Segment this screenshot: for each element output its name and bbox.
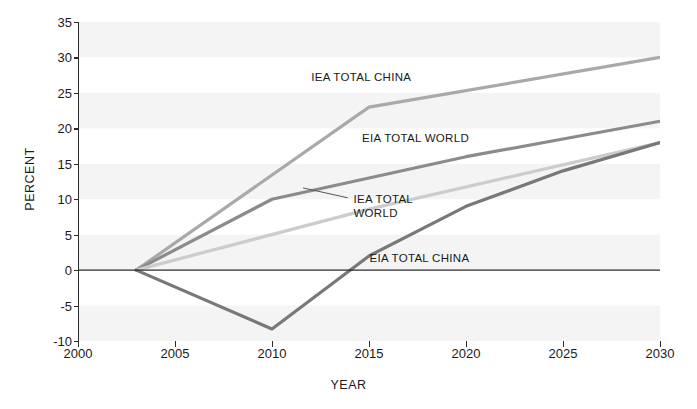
y-axis-tick-mark: [74, 57, 79, 58]
y-axis-tick-mark: [74, 235, 79, 236]
series-label-eia-total-world: EIA TOTAL WORLD: [362, 131, 469, 145]
y-axis-tick-label: 25: [26, 85, 72, 100]
x-axis-title: YEAR: [0, 378, 697, 392]
y-axis-tick-label: 5: [26, 227, 72, 242]
y-axis-tick-mark: [74, 93, 79, 94]
x-axis-tick-label: 2015: [334, 346, 404, 361]
x-axis-tick-label: 2030: [625, 346, 695, 361]
x-axis-tick-mark: [78, 341, 79, 347]
y-axis-line: [78, 22, 79, 341]
x-axis-tick-mark: [272, 341, 273, 347]
y-axis-tick-label: 15: [26, 156, 72, 171]
y-axis-tick-label: 0: [26, 263, 72, 278]
y-axis-tick-mark: [74, 164, 79, 165]
x-axis-tick-label: 2020: [431, 346, 501, 361]
x-axis-tick-mark: [466, 341, 467, 347]
x-axis-tick-label: 2000: [43, 346, 113, 361]
x-axis-tick-mark: [563, 341, 564, 347]
y-axis-tick-mark: [74, 270, 79, 271]
series-label-eia-total-china: EIA TOTAL CHINA: [369, 251, 469, 265]
x-axis-tick-mark: [369, 341, 370, 347]
y-axis-tick-label: 20: [26, 121, 72, 136]
y-axis-tick-label: -5: [26, 298, 72, 313]
y-axis-tick-mark: [74, 22, 79, 23]
x-axis-tick-label: 2005: [140, 346, 210, 361]
background-band: [78, 306, 660, 341]
series-label-iea-total-world-line1: IEA TOTAL: [353, 193, 413, 205]
y-axis-tick-label: 30: [26, 50, 72, 65]
y-axis-tick-label: 10: [26, 192, 72, 207]
x-axis-tick-mark: [660, 341, 661, 347]
series-label-iea-total-china: IEA TOTAL CHINA: [311, 70, 411, 84]
y-axis-tick-mark: [74, 128, 79, 129]
series-label-iea-total-world: IEA TOTAL WORLD: [353, 192, 413, 220]
x-axis-tick-mark: [175, 341, 176, 347]
series-label-iea-total-world-line2: WORLD: [353, 207, 397, 219]
background-band: [78, 22, 660, 57]
x-axis-tick-label: 2010: [237, 346, 307, 361]
y-axis-tick-mark: [74, 306, 79, 307]
chart-canvas: PERCENT 35302520151050-5-10 200020052010…: [0, 0, 697, 409]
background-band: [78, 93, 660, 128]
y-axis-tick-label: 35: [26, 15, 72, 30]
x-axis-tick-label: 2025: [528, 346, 598, 361]
y-axis-tick-mark: [74, 199, 79, 200]
